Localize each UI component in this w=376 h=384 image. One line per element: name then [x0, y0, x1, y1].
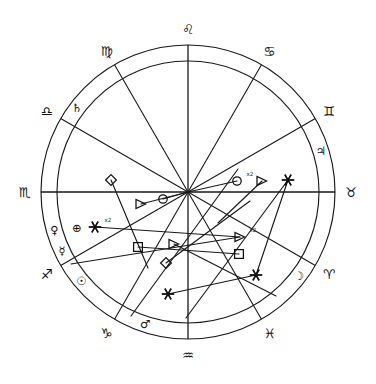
house-cusp-line-5 — [188, 192, 254, 305]
aspect-line-9 — [168, 275, 256, 294]
house-cusp-line-2 — [188, 127, 301, 193]
sign-ring-tick-7 — [115, 305, 123, 319]
sign-ring-tick-5 — [254, 305, 262, 319]
aspect-line-0 — [188, 181, 237, 192]
aspect-line-5 — [256, 180, 288, 275]
aspect-multiplier-label: x2 — [250, 227, 257, 233]
zodiac-glyph-virgo: ♍ — [100, 43, 112, 59]
zodiac-glyph-capricorn: ♑ — [100, 325, 112, 341]
planet-glyph-jupiter: ♃ — [316, 144, 326, 158]
aspect-multiplier-label: x2 — [105, 217, 112, 223]
aspect-marker-opposition: x2 — [233, 171, 254, 185]
planet-glyph-mars: ♂ — [140, 317, 150, 331]
sign-ring-tick-2 — [301, 119, 315, 127]
aspect-marker-sextile — [250, 270, 262, 281]
aspect-line-2 — [141, 192, 188, 204]
chart-canvas: x2x2x2 ♄♀⊕☿☉♂☽♃ ♌♋♊♉♈♓♒♑♐♏♎♍ — [0, 0, 376, 384]
aspect-marker-sextile — [162, 289, 174, 300]
aspect-marker-sextile — [282, 175, 294, 186]
sign-ring-tick-11 — [115, 65, 123, 79]
astrology-chart-wheel: x2x2x2 ♄♀⊕☿☉♂☽♃ ♌♋♊♉♈♓♒♑♐♏♎♍ — [0, 0, 376, 384]
house-cusp-line-1 — [188, 79, 254, 192]
aspect-marker-sextile: x2 — [89, 217, 112, 232]
zodiac-glyph-cancer: ♋ — [263, 43, 275, 59]
planet-glyph-venus: ♀ — [50, 223, 58, 237]
zodiac-glyph-sagittarius: ♐ — [41, 266, 53, 282]
house-cusp-line-10 — [75, 127, 188, 193]
aspect-line-12 — [71, 237, 240, 264]
zodiac-glyph-taurus: ♉ — [345, 184, 357, 200]
aspect-line-11 — [131, 169, 238, 316]
sign-ring-tick-4 — [301, 258, 315, 266]
zodiac-glyph-aquarius: ♒ — [182, 347, 194, 363]
sign-ring-tick-10 — [61, 119, 75, 127]
aspect-multiplier-label: x2 — [247, 171, 254, 177]
planet-glyph-sun: ☉ — [76, 274, 86, 288]
planet-glyph-mercury: ☿ — [58, 244, 65, 258]
zodiac-glyph-leo: ♌ — [182, 21, 194, 37]
zodiac-glyph-gemini: ♊ — [323, 103, 335, 119]
zodiac-glyph-pisces: ♓ — [263, 325, 275, 341]
house-cusp-line-4 — [188, 192, 301, 258]
aspect-line-10 — [174, 244, 276, 296]
house-cusp-line-11 — [123, 79, 189, 192]
planet-glyph-earth: ⊕ — [72, 221, 82, 235]
aspect-marker-trine: x2 — [235, 227, 256, 242]
zodiac-glyph-aries: ♈ — [323, 266, 335, 282]
zodiac-glyph-scorpio: ♏ — [19, 184, 31, 200]
planet-glyph-saturn: ♄ — [72, 101, 82, 115]
sign-ring-tick-1 — [254, 65, 262, 79]
planet-glyph-moon: ☽ — [294, 269, 304, 283]
zodiac-glyph-libra: ♎ — [41, 103, 53, 119]
